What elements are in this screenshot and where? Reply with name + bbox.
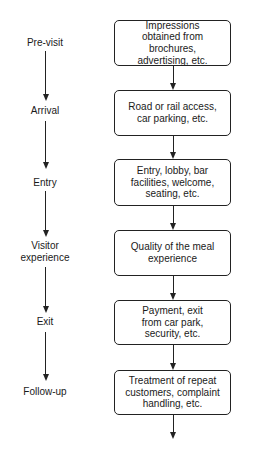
step-text: Quality of the meal experience — [131, 241, 214, 264]
step-connector — [173, 415, 174, 433]
arrow-down-icon — [170, 363, 176, 370]
arrow-down-icon — [170, 83, 176, 90]
arrow-down-icon — [43, 230, 49, 237]
arrow-down-icon — [170, 293, 176, 300]
step-text: Payment, exit from car park, security, e… — [142, 305, 204, 340]
stage-connector — [45, 191, 46, 231]
arrow-down-icon — [43, 94, 49, 101]
step-box-arrival: Road or rail access, car parking, etc. — [114, 90, 231, 136]
arrow-down-icon — [43, 162, 49, 169]
step-box-exit: Payment, exit from car park, security, e… — [114, 300, 231, 345]
step-text: Entry, lobby, bar facilities, welcome, s… — [131, 165, 214, 200]
step-connector — [173, 276, 174, 294]
stage-connector — [45, 51, 46, 95]
step-box-pre-visit: Impressions obtained from brochures, adv… — [114, 20, 231, 66]
step-connector — [173, 66, 174, 84]
step-connector — [173, 136, 174, 153]
stage-label-pre-visit: Pre-visit — [0, 37, 90, 49]
arrow-down-icon — [43, 374, 49, 381]
step-connector — [173, 206, 174, 224]
step-text: Treatment of repeat customers, complaint… — [125, 375, 219, 410]
arrow-down-icon — [170, 223, 176, 230]
step-connector — [173, 345, 174, 364]
stage-label-follow-up: Follow-up — [0, 386, 90, 398]
step-box-visitor-experience: Quality of the meal experience — [114, 230, 231, 276]
stage-connector — [45, 267, 46, 307]
arrow-down-icon — [170, 152, 176, 159]
step-box-entry: Entry, lobby, bar facilities, welcome, s… — [114, 159, 231, 206]
arrow-down-icon — [43, 306, 49, 313]
stage-connector — [45, 121, 46, 163]
stage-label-entry: Entry — [0, 177, 90, 189]
stage-label-arrival: Arrival — [0, 105, 90, 117]
step-box-follow-up: Treatment of repeat customers, complaint… — [114, 370, 231, 415]
step-text: Road or rail access, car parking, etc. — [128, 101, 216, 124]
stage-label-exit: Exit — [0, 316, 90, 328]
arrow-down-icon — [170, 432, 176, 439]
step-text: Impressions obtained from brochures, adv… — [117, 20, 228, 66]
stage-label-visitor-experience: Visitor experience — [0, 240, 90, 263]
stage-connector — [45, 332, 46, 375]
